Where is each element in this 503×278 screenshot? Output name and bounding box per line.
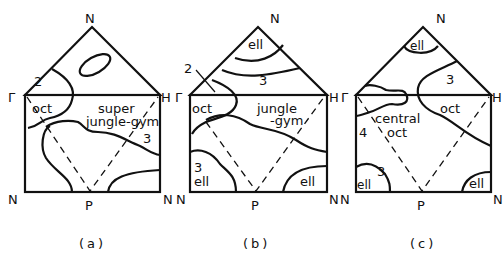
label-ell-top: ell	[410, 39, 424, 53]
ellipse-region	[76, 50, 113, 81]
panel-c: ell 3 oct 4 central oct 3 ell ell N Γ H …	[340, 11, 503, 251]
label-ell-left: ell	[357, 178, 371, 192]
vertex-bottom-right-N: N	[163, 192, 173, 207]
label-3-bottom: 3	[377, 164, 385, 179]
label-3: 3	[143, 131, 151, 146]
vertex-top-N: N	[436, 11, 446, 26]
vertex-gamma: Γ	[175, 90, 183, 105]
vertex-bottom-left-N: N	[340, 192, 350, 207]
caption-b: (b)	[243, 236, 270, 251]
vertex-H: H	[161, 90, 171, 105]
caption-c: (c)	[410, 236, 436, 251]
vertex-P: P	[85, 198, 93, 213]
triangle-frame	[25, 27, 160, 95]
vertex-H: H	[492, 90, 502, 105]
label-3-top: 3	[259, 73, 267, 88]
vertex-H: H	[329, 90, 339, 105]
label-4: 4	[359, 125, 367, 140]
label-central-oct: oct	[387, 125, 407, 140]
label-oct: oct	[32, 101, 52, 116]
label-oct: oct	[192, 101, 212, 116]
label-ell-right: ell	[300, 174, 315, 189]
vertex-P: P	[417, 198, 425, 213]
label-2: 2	[184, 61, 192, 76]
label-central: central	[375, 111, 420, 126]
boundary-lower-right	[108, 170, 160, 192]
triangle-frame	[356, 27, 491, 95]
label-jungle-gym: jungle-gym	[85, 114, 159, 129]
vertex-top-N: N	[270, 11, 280, 26]
vertex-bottom-right-N: N	[329, 192, 339, 207]
panel-b: ell 2 3 oct jungle -gym 3 ell ell N Γ H …	[175, 11, 339, 251]
label-2: 2	[34, 74, 42, 89]
vertex-bottom-right-N: N	[493, 192, 503, 207]
vertex-bottom-left-N: N	[8, 192, 18, 207]
vertex-top-N: N	[85, 11, 95, 26]
panel-a: 2 oct super jungle-gym 3 N Γ H N N P (a)	[8, 11, 173, 251]
label-ell-left: ell	[194, 174, 209, 189]
label-3-bottom: 3	[194, 160, 202, 175]
label-3-top: 3	[446, 72, 454, 87]
label-ell-right: ell	[469, 176, 484, 191]
label-gym: -gym	[270, 113, 303, 128]
vertex-gamma: Γ	[8, 90, 16, 105]
label-oct: oct	[440, 101, 460, 116]
boundary-lower-left	[43, 126, 72, 192]
vertex-P: P	[251, 198, 259, 213]
phase-diagram-figure: 2 oct super jungle-gym 3 N Γ H N N P (a)…	[0, 0, 503, 278]
vertex-gamma: Γ	[341, 90, 349, 105]
label-ell-top: ell	[248, 37, 263, 52]
caption-a: (a)	[79, 236, 106, 251]
vertex-bottom-left-N: N	[176, 192, 186, 207]
